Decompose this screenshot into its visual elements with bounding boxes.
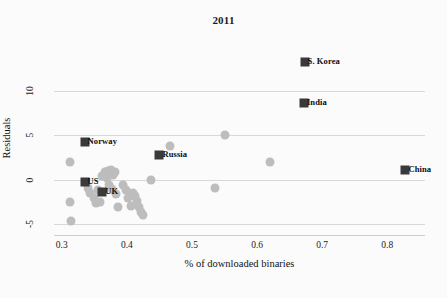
data-point xyxy=(66,157,75,166)
x-tick-label: 0.8 xyxy=(381,240,393,250)
x-tick-label: 0.6 xyxy=(251,240,263,250)
data-point-label: India xyxy=(307,97,327,107)
data-point xyxy=(96,198,105,207)
data-point xyxy=(146,175,155,184)
chart-title: 2011 xyxy=(0,14,447,26)
gridline-y xyxy=(54,91,425,92)
y-tick-label: -5 xyxy=(25,220,35,228)
y-tick-label: 0 xyxy=(25,177,35,182)
data-point-label: Norway xyxy=(88,136,117,146)
x-tick-label: 0.3 xyxy=(56,240,68,250)
data-point xyxy=(110,167,119,176)
data-point xyxy=(210,183,219,192)
y-axis-label: Residuals xyxy=(1,118,12,159)
data-point-label: UK xyxy=(105,186,118,196)
data-point xyxy=(114,203,123,212)
data-point xyxy=(220,131,229,140)
data-point xyxy=(138,211,147,220)
data-point-label: Russia xyxy=(162,149,187,159)
y-tick-label: 10 xyxy=(25,86,35,96)
data-point-label: S. Korea xyxy=(308,56,340,66)
chart-figure: 2011 Residuals S. KoreaIndiaNorwayRussia… xyxy=(0,0,447,298)
y-tick-label: 5 xyxy=(25,133,35,138)
x-axis-label: % of downloaded binaries xyxy=(54,258,425,269)
x-tick-label: 0.7 xyxy=(316,240,328,250)
gridline-y xyxy=(54,224,425,225)
x-tick-label: 0.5 xyxy=(186,240,198,250)
data-point xyxy=(266,157,275,166)
x-tick-label: 0.4 xyxy=(121,240,133,250)
x-axis-line xyxy=(54,235,425,236)
plot-area: S. KoreaIndiaNorwayRussiaChinaUSUK xyxy=(54,40,425,235)
data-point xyxy=(66,216,75,225)
data-point-label: China xyxy=(408,164,431,174)
data-point xyxy=(65,198,74,207)
data-point-label: US xyxy=(88,176,99,186)
